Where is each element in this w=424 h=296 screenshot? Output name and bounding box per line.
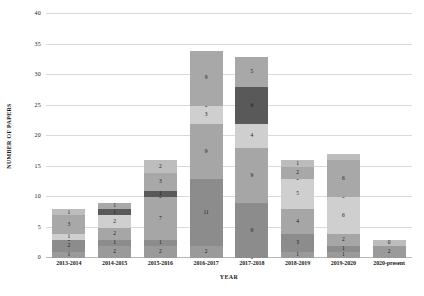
bar-segment[interactable]: 1	[144, 240, 177, 246]
y-tick-label-0: 0	[38, 254, 41, 260]
bar-segment[interactable]: 7	[144, 197, 177, 240]
bar-segment[interactable]: 9	[235, 148, 268, 203]
bar-segment[interactable]: 2	[281, 167, 314, 179]
bar-segment[interactable]	[327, 154, 360, 160]
stacked-bar-chart: NUMBER OF PAPERS 0510152025303540 120131…	[0, 0, 424, 296]
bar-segment-value: 6	[342, 176, 345, 182]
bar-segment-value: 4	[296, 219, 299, 225]
bar-segment-value: 1	[342, 246, 345, 252]
y-tick-label-5: 5	[38, 224, 41, 230]
bar-segment[interactable]: 2	[144, 160, 177, 172]
bar-segment[interactable]: 2	[98, 215, 131, 227]
bar-segment[interactable]: 1	[52, 252, 85, 258]
x-axis-label: 2013-2014	[46, 260, 92, 266]
bar-segment-value: 6	[342, 213, 345, 219]
bar-segment[interactable]: 1	[52, 234, 85, 240]
bar-segment[interactable]: 1	[98, 240, 131, 246]
bar-segment-value: 5	[251, 69, 254, 75]
bar-segment-value: 1	[159, 191, 162, 197]
bar-segment[interactable]: 2	[98, 228, 131, 240]
bar-group[interactable]: 212211	[98, 203, 131, 258]
bar-segment-value: 2	[68, 243, 71, 249]
bar-segment[interactable]: 1	[327, 246, 360, 252]
bar-segment-value: 2	[205, 249, 208, 255]
bar-segment-value: 1	[159, 240, 162, 246]
bar-segment-value: 2	[296, 170, 299, 176]
bar-segment-value: 9	[251, 228, 254, 234]
y-axis-title: NUMBER OF PAPERS	[2, 14, 16, 258]
x-axis-label: 2015-2016	[138, 260, 184, 266]
bar-segment[interactable]: 5	[281, 179, 314, 210]
bar-segment[interactable]: 6	[327, 160, 360, 197]
bar-segment[interactable]: 2	[327, 234, 360, 246]
bar-segment[interactable]: 4	[235, 124, 268, 148]
bar-segment-value: 1	[68, 252, 71, 258]
bar-segment-value: 3	[159, 179, 162, 185]
bar-segment[interactable]: 2	[373, 246, 406, 258]
x-axis-label: 2017-2018	[229, 260, 275, 266]
bar-group[interactable]: 1345021	[281, 160, 314, 258]
y-tick-label-15: 15	[35, 163, 41, 169]
x-axis-label: 2014-2015	[92, 260, 138, 266]
bar-segment[interactable]: 6	[235, 87, 268, 124]
bar-segment-value: 2	[159, 164, 162, 170]
y-tick-label-10: 10	[35, 193, 41, 199]
bar-segment-value: 2	[388, 249, 391, 255]
x-axis-title: YEAR	[46, 274, 412, 280]
y-tick-label-35: 35	[35, 41, 41, 47]
bar-group[interactable]: 2119309	[190, 51, 223, 258]
bar-segment-value: 1	[113, 203, 116, 209]
bar-segment-value: 4	[251, 133, 254, 139]
bar-segment-value: 7	[159, 216, 162, 222]
bar-segment[interactable]: 1	[281, 252, 314, 258]
bar-group[interactable]: 120131	[52, 209, 85, 258]
y-tick-label-25: 25	[35, 102, 41, 108]
y-axis-title-wrapper: NUMBER OF PAPERS	[0, 14, 16, 258]
bar-segment[interactable]: 1	[281, 160, 314, 166]
bar-segment[interactable]: 0	[373, 240, 406, 246]
bar-segment[interactable]: 2	[190, 246, 223, 258]
x-axis-label: 2018-2019	[275, 260, 321, 266]
bar-series-container: 1201312122112170132211930909946513450211…	[46, 14, 412, 258]
bar-segment[interactable]: 3	[52, 215, 85, 233]
bar-segment-value: 1	[113, 210, 116, 216]
bar-group[interactable]: 2170132	[144, 160, 177, 258]
bar-segment[interactable]: 1	[327, 252, 360, 258]
bar-segment[interactable]: 4	[281, 209, 314, 233]
bar-segment-value: 1	[296, 252, 299, 258]
bar-segment[interactable]: 1	[52, 209, 85, 215]
bar-segment-value: 0	[388, 240, 391, 246]
bar-segment[interactable]: 3	[144, 173, 177, 191]
bar-segment[interactable]: 1	[98, 203, 131, 209]
bar-segment-value: 1	[113, 240, 116, 246]
bar-segment[interactable]: 1	[144, 191, 177, 197]
bar-group[interactable]: 20	[373, 240, 406, 258]
bar-segment-value: 1	[68, 210, 71, 216]
bar-segment-value: 9	[205, 149, 208, 155]
bar-segment[interactable]: 1	[98, 209, 131, 215]
bar-segment-value: 1	[342, 252, 345, 258]
bar-segment[interactable]: 11	[190, 179, 223, 246]
x-axis-labels: 2013-20142014-20152015-20162016-20172017…	[46, 260, 412, 272]
bar-segment[interactable]: 5	[235, 57, 268, 88]
bar-group[interactable]: 112606	[327, 154, 360, 258]
bar-segment-value: 2	[113, 249, 116, 255]
bar-segment[interactable]: 3	[281, 234, 314, 252]
y-tick-label-20: 20	[35, 132, 41, 138]
bar-segment-value: 2	[342, 237, 345, 243]
bar-segment[interactable]: 9	[190, 51, 223, 106]
bar-segment[interactable]: 9	[190, 124, 223, 179]
bar-segment[interactable]: 6	[327, 197, 360, 234]
x-axis-label: 2019-2020	[321, 260, 367, 266]
bar-segment[interactable]: 2	[144, 246, 177, 258]
bar-segment[interactable]: 9	[235, 203, 268, 258]
bar-segment-value: 11	[203, 210, 208, 216]
bar-segment-value: 2	[159, 249, 162, 255]
bar-group[interactable]: 099465	[235, 57, 268, 258]
bar-segment[interactable]: 2	[98, 246, 131, 258]
y-tick-label-40: 40	[35, 10, 41, 16]
bar-segment-value: 5	[296, 191, 299, 197]
x-axis-label: 2020-present	[366, 260, 412, 266]
y-tick-label-30: 30	[35, 71, 41, 77]
bar-segment-value: 3	[68, 222, 71, 228]
